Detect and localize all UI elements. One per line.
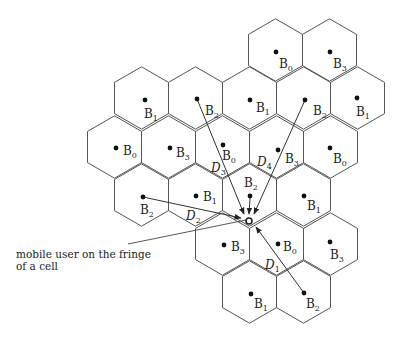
- base-station-dot: [303, 98, 308, 103]
- base-station-dot: [274, 50, 279, 55]
- base-station-dot: [114, 146, 119, 151]
- base-station-dot: [328, 240, 333, 245]
- mobile-user-icon: [246, 218, 252, 224]
- annotation-line-1: mobile user on the fringe: [16, 248, 151, 260]
- base-station-dot: [141, 195, 146, 200]
- base-station-dot: [194, 194, 199, 199]
- base-station-dot: [195, 97, 200, 102]
- base-station-dot: [328, 50, 333, 55]
- mobile-user-annotation: mobile user on the fringe of a cell: [16, 248, 151, 272]
- base-station-dot: [328, 146, 333, 151]
- mobile-user-marker: [246, 218, 252, 224]
- base-station-dot: [302, 194, 307, 199]
- annotation-line-2: of a cell: [16, 260, 151, 272]
- base-station-dot: [248, 98, 253, 103]
- base-station-dot: [248, 194, 253, 199]
- base-station-dot: [143, 98, 148, 103]
- base-station-dot: [221, 143, 226, 148]
- base-station-dot: [168, 146, 173, 151]
- base-station-dot: [276, 242, 281, 247]
- base-station-dot: [355, 96, 360, 101]
- cellular-network-diagram: B0B3B1B2B1B2B1B0B3B0B3B0B2B1B2B1B3B0B3B1…: [0, 0, 399, 337]
- base-station-dot: [249, 292, 254, 297]
- hex-cell: [115, 67, 169, 129]
- base-station-dot: [276, 148, 281, 153]
- base-station-dot: [222, 243, 227, 248]
- base-station-dot: [302, 291, 307, 296]
